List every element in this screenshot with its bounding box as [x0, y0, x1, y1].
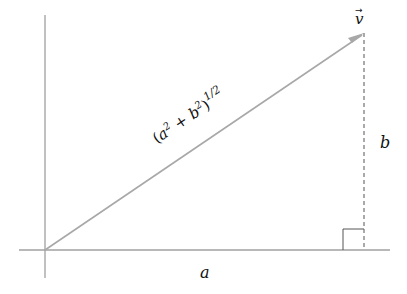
vector-diagram: v → (a2 + b2)1/2 a b — [0, 0, 407, 294]
vector-v — [45, 35, 362, 250]
svg-text:(a2 + b2)1/2: (a2 + b2)1/2 — [147, 83, 228, 148]
vector-label-arrow-icon: → — [355, 5, 363, 15]
vertical-side-label: b — [380, 133, 390, 152]
vector-arrowhead-icon — [348, 33, 364, 43]
hypotenuse-label: (a2 + b2)1/2 — [147, 83, 228, 148]
horizontal-side-label: a — [200, 263, 210, 282]
right-angle-marker — [343, 229, 364, 250]
